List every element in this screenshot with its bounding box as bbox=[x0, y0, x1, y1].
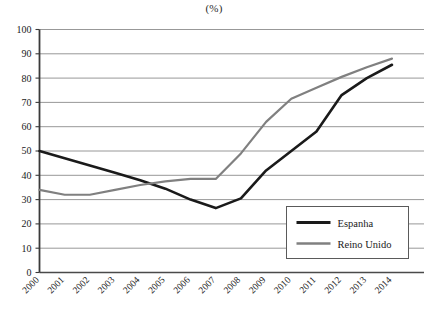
x-tick-label: 2003 bbox=[96, 275, 117, 296]
x-tick-label: 2000 bbox=[20, 275, 41, 296]
x-tick-label: 2006 bbox=[171, 275, 192, 296]
data-series-group bbox=[40, 59, 393, 208]
y-tick-label: 10 bbox=[22, 243, 32, 254]
y-tick-label: 80 bbox=[22, 73, 32, 84]
legend-item-label: Reino Unido bbox=[338, 239, 392, 250]
line-chart-plot: 0102030405060708090100 20002001200220032… bbox=[0, 0, 428, 313]
y-tick-label: 20 bbox=[22, 218, 32, 229]
y-tick-labels: 0102030405060708090100 bbox=[17, 24, 32, 278]
x-tick-label: 2011 bbox=[298, 275, 318, 295]
x-tick-label: 2010 bbox=[272, 275, 293, 296]
x-tick-labels: 2000200120022003200420052006200720082009… bbox=[20, 275, 393, 296]
y-tick-label: 60 bbox=[22, 121, 32, 132]
x-tick-label: 2005 bbox=[146, 275, 167, 296]
y-tick-label: 70 bbox=[22, 97, 32, 108]
y-tick-label: 90 bbox=[22, 48, 32, 59]
x-tick-label: 2014 bbox=[373, 275, 394, 296]
series-line bbox=[40, 65, 393, 208]
y-tick-label: 50 bbox=[22, 145, 32, 156]
y-tick-label: 40 bbox=[22, 170, 32, 181]
x-tick-label: 2012 bbox=[323, 275, 344, 296]
legend-item-label: Espanha bbox=[338, 218, 374, 229]
x-tick-label: 2009 bbox=[247, 275, 268, 296]
x-tick-label: 2004 bbox=[121, 275, 142, 296]
y-tick-label: 0 bbox=[27, 267, 32, 278]
y-tick-label: 30 bbox=[22, 194, 32, 205]
chart-legend: EspanhaReino Unido bbox=[287, 207, 409, 259]
x-tick-label: 2001 bbox=[46, 275, 67, 296]
x-tick-label: 2002 bbox=[71, 275, 92, 296]
legend-box-border bbox=[287, 207, 409, 259]
x-tick-label: 2013 bbox=[348, 275, 369, 296]
chart-figure: (%) 0102030405060708090100 2000200120022… bbox=[0, 0, 428, 313]
x-tick-label: 2008 bbox=[222, 275, 243, 296]
x-tick-label: 2007 bbox=[197, 275, 218, 296]
y-tick-label: 100 bbox=[17, 24, 32, 35]
